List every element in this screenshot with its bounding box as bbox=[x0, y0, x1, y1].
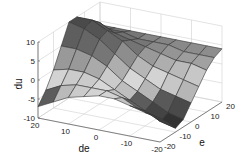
z-tick-label: -5 bbox=[28, 95, 36, 104]
z-tick-label: 0 bbox=[31, 76, 36, 85]
y-axis-label: e bbox=[199, 137, 205, 148]
z-tick-label: 5 bbox=[31, 57, 36, 66]
surface-mesh bbox=[38, 17, 222, 128]
x-axis-label: de bbox=[78, 143, 90, 154]
x-tick-label: 10 bbox=[61, 127, 70, 136]
x-tick-label: -10 bbox=[121, 139, 133, 148]
x-tick-label: -20 bbox=[151, 145, 163, 154]
y-tick-label: 20 bbox=[226, 102, 235, 111]
x-tick-label: 20 bbox=[31, 121, 40, 130]
z-tick-label: 10 bbox=[26, 38, 35, 47]
y-tick-label: 10 bbox=[211, 112, 220, 121]
z-axis-label: du bbox=[13, 78, 24, 89]
y-tick-label: 0 bbox=[195, 122, 200, 131]
y-tick-label: -20 bbox=[164, 142, 176, 151]
surface-plot: 1050-5-1020100-10-20-20-1001020 du de e bbox=[0, 0, 241, 158]
y-tick-label: -10 bbox=[180, 132, 192, 141]
x-tick-label: 0 bbox=[94, 133, 99, 142]
